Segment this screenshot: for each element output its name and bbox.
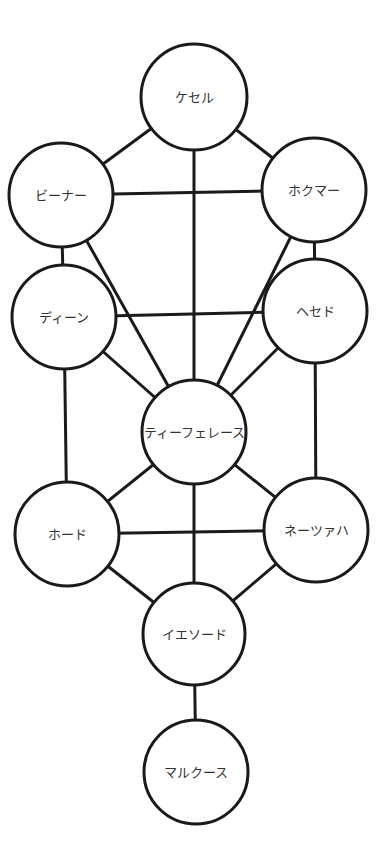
node-chesed: ヘセド <box>263 259 367 363</box>
node-label: イエソード <box>162 627 227 642</box>
node-label: ティーフェレース <box>144 425 245 440</box>
node-label: マルクース <box>164 765 228 780</box>
node-tiphereth: ティーフェレース <box>142 380 246 484</box>
node-din: ディーン <box>12 265 116 369</box>
node-label: ヘセド <box>296 304 335 319</box>
node-hod: ホード <box>15 482 119 586</box>
node-yesod: イエソード <box>143 583 245 685</box>
node-label: ホード <box>48 527 87 542</box>
node-netzach: ネーツァハ <box>264 478 368 582</box>
node-malkuth: マルクース <box>144 720 248 824</box>
node-binah: ビーナー <box>9 143 113 247</box>
node-label: ネーツァハ <box>284 523 349 538</box>
node-label: ホクマー <box>288 183 340 198</box>
tree-of-life-diagram: ケセルビーナーホクマーディーンヘセドティーフェレースホードネーツァハイエソードマ… <box>0 0 385 866</box>
node-label: ケセル <box>175 90 214 105</box>
node-label: ディーン <box>39 310 89 325</box>
node-label: ビーナー <box>35 188 87 203</box>
node-chokmah: ホクマー <box>262 138 366 242</box>
node-kether: ケセル <box>141 44 247 150</box>
